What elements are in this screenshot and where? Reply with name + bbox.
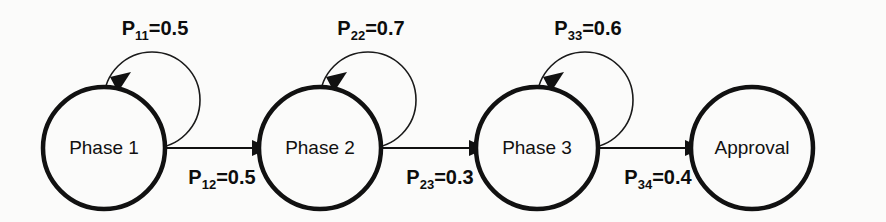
transition-label-p34: P34=0.4: [624, 166, 692, 192]
self-loop-label-p22: P22=0.7: [337, 17, 404, 43]
node-phase3[interactable]: Phase 3: [476, 87, 598, 209]
transition-arrow-phase2-phase3: [382, 140, 487, 156]
node-label-phase2: Phase 2: [285, 137, 355, 158]
node-phase2[interactable]: Phase 2: [259, 87, 381, 209]
state-transition-diagram: Phase 1 Phase 2 Phase 3 Approval P11=0.5…: [0, 0, 886, 222]
transition-arrow-phase3-approval: [599, 140, 703, 156]
node-approval[interactable]: Approval: [691, 87, 813, 209]
node-phase1[interactable]: Phase 1: [43, 87, 165, 209]
node-label-approval: Approval: [715, 137, 790, 158]
node-label-phase1: Phase 1: [69, 137, 139, 158]
self-loop-label-p33: P33=0.6: [554, 17, 621, 43]
transition-arrow-phase1-phase2: [166, 140, 270, 156]
transition-label-p23: P23=0.3: [406, 166, 473, 192]
self-loop-label-p11: P11=0.5: [122, 17, 189, 43]
node-label-phase3: Phase 3: [502, 137, 572, 158]
transition-label-p12: P12=0.5: [188, 166, 255, 192]
